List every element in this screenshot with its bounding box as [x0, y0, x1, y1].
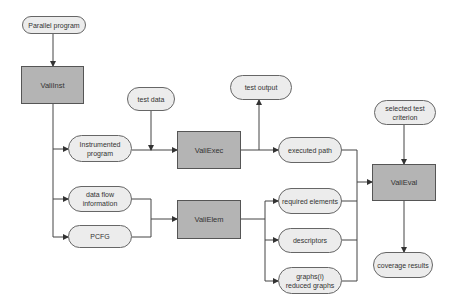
node-label: coverage results — [377, 261, 428, 270]
node-label: selected test criterion — [381, 104, 429, 122]
node-label: test output — [245, 83, 278, 92]
node-selected-test-criterion: selected test criterion — [374, 100, 436, 125]
node-label: required elements — [282, 197, 338, 206]
node-descriptors: descriptors — [278, 228, 342, 253]
node-label: Parallel program — [28, 21, 79, 30]
node-label: test data — [138, 95, 165, 104]
process-valiexec: ValiExec — [177, 131, 241, 169]
node-label: ValiExec — [195, 146, 224, 155]
process-valielem: ValiElem — [177, 200, 241, 239]
node-test-data: test data — [127, 87, 175, 111]
node-executed-path: executed path — [278, 137, 342, 163]
node-label: executed path — [288, 146, 332, 155]
node-parallel-program: Parallel program — [22, 16, 86, 34]
node-label: descriptors — [293, 236, 327, 245]
node-instrumented-program: Instrumented program — [68, 135, 132, 162]
node-label: graphs(i) reduced graphs — [285, 272, 335, 290]
node-pcfg: PCFG — [68, 225, 132, 248]
node-required-elements: required elements — [278, 188, 342, 214]
node-label: ValiEval — [391, 178, 418, 187]
node-label: data flow information — [79, 190, 121, 208]
node-test-output: test output — [230, 75, 292, 100]
node-graphs-reduced-graphs: graphs(i) reduced graphs — [278, 267, 342, 294]
node-coverage-results: coverage results — [373, 252, 433, 278]
node-label: ValiInst — [40, 81, 64, 90]
node-data-flow-information: data flow information — [68, 186, 132, 212]
node-label: PCFG — [90, 232, 109, 241]
process-valieval: ValiEval — [372, 164, 436, 201]
process-valiinst: ValiInst — [21, 66, 84, 104]
node-label: Instrumented program — [79, 140, 121, 158]
node-label: ValiElem — [194, 215, 223, 224]
